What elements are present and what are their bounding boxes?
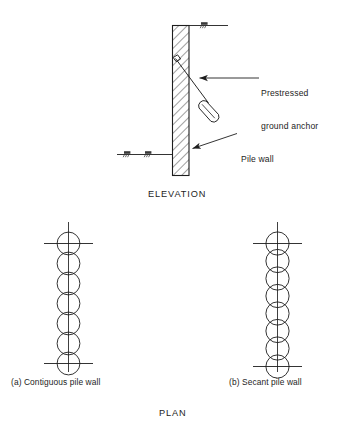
anchor-grout-bulb: [199, 101, 219, 122]
caption-secant-pile-wall: (b) Secant pile wall: [229, 377, 302, 388]
caption-elevation: ELEVATION: [148, 189, 206, 201]
caption-plan: PLAN: [159, 408, 187, 420]
secant-pile-wall-drawing: [253, 222, 302, 378]
elevation-drawing: [117, 22, 259, 175]
figure-drawing: [0, 0, 347, 425]
ground-level-right: [189, 22, 228, 28]
hatched-pile-wall: [173, 26, 190, 176]
callout-anchor-line2: ground anchor: [261, 121, 318, 132]
pile-wall-section: [173, 26, 190, 176]
callout-pile-wall-line1: Pile wall: [241, 154, 274, 165]
ground-level-left: [117, 151, 172, 157]
pile-wall-figure: Prestressed ground anchor Pile wall ELEV…: [0, 0, 347, 425]
contiguous-pile-wall-drawing: [44, 222, 93, 375]
caption-contiguous-pile-wall: (a) Contiguous pile wall: [11, 377, 100, 388]
callout-pile-wall: Pile wall: [241, 133, 274, 187]
leader-line-pile-wall: [193, 134, 238, 149]
callout-anchor-line1: Prestressed: [261, 88, 318, 99]
